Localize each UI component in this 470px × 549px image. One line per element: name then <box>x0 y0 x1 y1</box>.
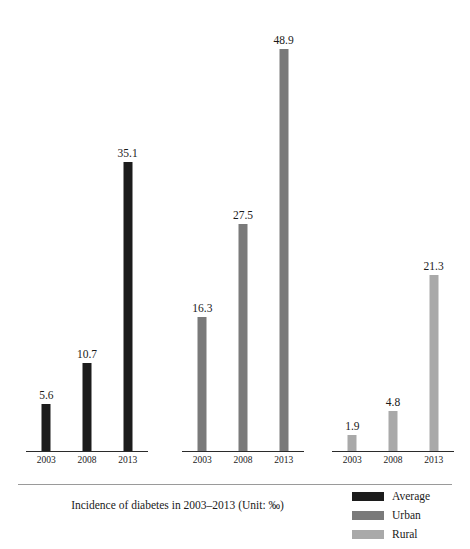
bar-average-2008[interactable] <box>82 363 91 451</box>
bar-slot: 35.1 <box>107 11 148 451</box>
chart-caption: Incidence of diabetes in 2003–2013 (Unit… <box>0 498 355 513</box>
legend-swatch-icon <box>352 530 384 539</box>
x-tick-label-2008: 2008 <box>67 454 108 466</box>
bar-urban-2013[interactable] <box>279 49 288 451</box>
legend-swatch-icon <box>352 511 384 520</box>
bar-value-label: 27.5 <box>233 209 253 221</box>
x-tick-label-2003: 2003 <box>26 454 67 466</box>
bar-group-bars: 5.610.735.1 <box>26 11 148 451</box>
bar-slot: 48.9 <box>263 11 304 451</box>
bar-slot: 16.3 <box>182 11 223 451</box>
bar-urban-2003[interactable] <box>198 317 207 451</box>
x-axis-tick-labels: 200320082013 <box>182 452 304 470</box>
legend-item-average[interactable]: Average <box>352 487 470 506</box>
x-tick-label-2013: 2013 <box>413 454 454 466</box>
bar-group-bars: 1.94.821.3 <box>332 11 454 451</box>
bar-value-label: 48.9 <box>274 34 294 46</box>
bar-group-average: 5.610.735.1200320082013 <box>26 0 148 452</box>
x-tick-label-2003: 2003 <box>332 454 373 466</box>
bar-average-2003[interactable] <box>42 404 51 450</box>
x-tick-label-2013: 2013 <box>107 454 148 466</box>
x-tick-label-2008: 2008 <box>223 454 264 466</box>
bar-value-label: 21.3 <box>424 260 444 272</box>
bar-slot: 21.3 <box>413 11 454 451</box>
caption-separator-rule <box>18 484 452 485</box>
x-tick-label-2013: 2013 <box>263 454 304 466</box>
bar-value-label: 35.1 <box>118 147 138 159</box>
bar-slot: 10.7 <box>67 11 108 451</box>
bar-group-rural: 1.94.821.3200320082013 <box>332 0 454 452</box>
bar-rural-2003[interactable] <box>348 435 357 451</box>
bar-average-2013[interactable] <box>123 162 132 451</box>
bar-slot: 27.5 <box>223 11 264 451</box>
bar-rural-2008[interactable] <box>388 411 397 450</box>
bar-slot: 4.8 <box>373 11 414 451</box>
bar-value-label: 10.7 <box>77 348 97 360</box>
bar-value-label: 5.6 <box>39 389 53 401</box>
bar-value-label: 1.9 <box>345 420 359 432</box>
legend-item-label: Urban <box>392 509 421 522</box>
legend-item-label: Rural <box>392 528 418 541</box>
chart-plot-area: 5.610.735.120032008201316.327.548.920032… <box>0 0 470 452</box>
x-tick-label-2008: 2008 <box>373 454 414 466</box>
bar-urban-2008[interactable] <box>238 224 247 450</box>
bar-slot: 5.6 <box>26 11 67 451</box>
x-tick-label-2003: 2003 <box>182 454 223 466</box>
legend-item-label: Average <box>392 490 430 503</box>
legend-swatch-icon <box>352 492 384 501</box>
bar-group-bars: 16.327.548.9 <box>182 11 304 451</box>
bar-slot: 1.9 <box>332 11 373 451</box>
bar-value-label: 4.8 <box>386 396 400 408</box>
bar-rural-2013[interactable] <box>429 275 438 450</box>
diabetes-incidence-figure: 5.610.735.120032008201316.327.548.920032… <box>0 0 470 549</box>
x-axis-tick-labels: 200320082013 <box>332 452 454 470</box>
legend-item-urban[interactable]: Urban <box>352 506 470 525</box>
legend-item-rural[interactable]: Rural <box>352 525 470 544</box>
bar-value-label: 16.3 <box>192 302 212 314</box>
bar-group-urban: 16.327.548.9200320082013 <box>182 0 304 452</box>
x-axis-tick-labels: 200320082013 <box>26 452 148 470</box>
chart-legend: AverageUrbanRural <box>352 487 470 544</box>
